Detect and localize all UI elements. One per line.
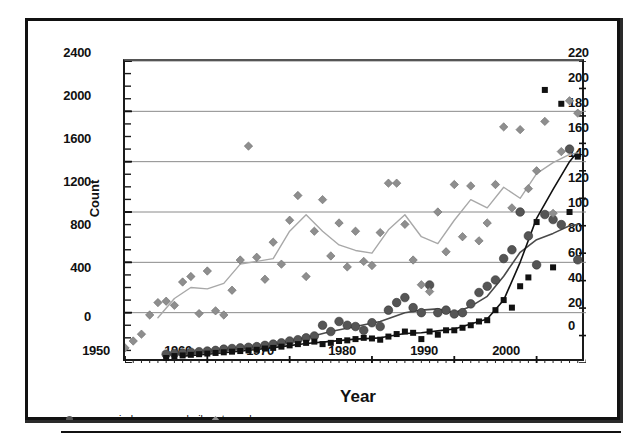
y-left-tick-2000: 2000 [41, 88, 91, 103]
chart-figure: 2400 2000 1600 1200 800 400 0 220 200 18… [0, 0, 642, 441]
y-left-tick-800: 800 [41, 217, 91, 232]
y-right-tick-220: 220 [568, 45, 608, 60]
legend-label-severe-hail: severe hail [152, 413, 203, 425]
x-tick-1950: 1950 [71, 343, 121, 358]
plot-svg [125, 61, 586, 363]
legend-item-severe-wind: severe wind [66, 413, 133, 425]
chart-frame: 2400 2000 1600 1200 800 400 0 220 200 18… [25, 18, 620, 420]
square-marker-icon [143, 417, 148, 422]
y-left-tick-1200: 1200 [41, 174, 91, 189]
legend-item-tornadoes: tornadoes [213, 413, 269, 425]
y-left-tick-400: 400 [41, 260, 91, 275]
legend-label-severe-wind: severe wind [77, 413, 133, 425]
diamond-marker-icon [212, 415, 219, 422]
y-left-tick-2400: 2400 [41, 45, 91, 60]
circle-marker-icon [66, 416, 73, 423]
y-left-tick-0: 0 [41, 309, 91, 324]
x-axis-title: Year [258, 387, 458, 407]
legend-label-tornadoes: tornadoes [222, 413, 269, 425]
y-left-tick-1600: 1600 [41, 131, 91, 146]
plot-area [123, 59, 584, 361]
legend-divider [61, 431, 621, 433]
y-axis-left-title: Count [87, 159, 102, 239]
chart-legend: severe wind severe hail tornadoes [66, 413, 269, 425]
legend-item-severe-hail: severe hail [143, 413, 203, 425]
